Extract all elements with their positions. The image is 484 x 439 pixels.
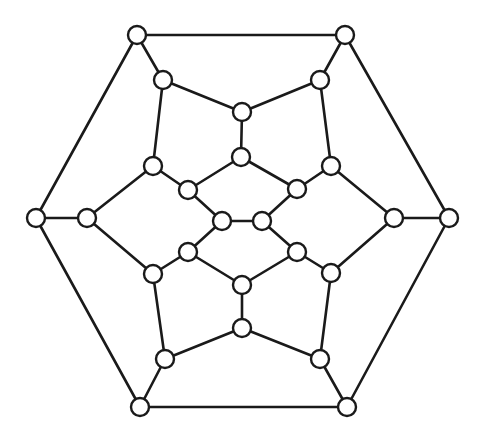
graph-node (154, 71, 172, 89)
graph-node (232, 148, 250, 166)
graph-node (253, 212, 271, 230)
graph-node (385, 209, 403, 227)
graph-node (179, 181, 197, 199)
graph-node (233, 103, 251, 121)
graph-node (233, 319, 251, 337)
graph-edge (36, 218, 140, 407)
graph-node (131, 398, 149, 416)
graph-node (322, 264, 340, 282)
graph-edge (153, 274, 165, 359)
graph-edge (331, 218, 394, 273)
graph-node (336, 26, 354, 44)
graph-edge (320, 80, 331, 166)
graph-node (311, 71, 329, 89)
graph-node (156, 350, 174, 368)
graph-node (213, 212, 231, 230)
graph-node (144, 265, 162, 283)
graph-node (322, 157, 340, 175)
graph-edge (331, 166, 394, 218)
graph-node (288, 180, 306, 198)
graph-edge (87, 218, 153, 274)
graph-node (440, 209, 458, 227)
graph-node (27, 209, 45, 227)
graph-edge (242, 80, 320, 112)
graph-node (338, 398, 356, 416)
graph-node (311, 350, 329, 368)
graph-node (233, 276, 251, 294)
graph-edge (242, 328, 320, 359)
graph-node (288, 243, 306, 261)
graph-edge (320, 273, 331, 359)
graph-diagram (0, 0, 484, 439)
graph-edge (165, 328, 242, 359)
graph-node (128, 26, 146, 44)
graph-node (78, 209, 96, 227)
graph-edge (153, 80, 163, 166)
graph-edge (87, 166, 153, 218)
graph-node (179, 243, 197, 261)
graph-edge (163, 80, 242, 112)
graph-node (144, 157, 162, 175)
